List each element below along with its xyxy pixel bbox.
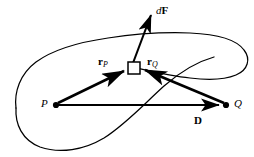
diagram-canvas	[0, 0, 254, 157]
point-p-label: P	[41, 98, 48, 109]
rp-label-subscript: P	[103, 60, 108, 69]
rq-label-subscript: Q	[152, 60, 158, 69]
rq-vector-label: rQ	[147, 56, 158, 69]
surface-element-square	[128, 62, 140, 74]
displacement-label: D	[194, 115, 202, 126]
position-vector-rq	[145, 70, 224, 103]
point-p-dot	[53, 102, 59, 108]
point-q-dot	[223, 102, 229, 108]
vector-diagram-figure: dF rP rQ P Q D	[0, 0, 254, 157]
rp-vector-label: rP	[98, 56, 108, 69]
position-vector-rp	[58, 71, 124, 103]
force-label-F: F	[162, 4, 169, 16]
force-vector-label: dF	[156, 5, 168, 16]
point-q-label: Q	[234, 98, 242, 109]
